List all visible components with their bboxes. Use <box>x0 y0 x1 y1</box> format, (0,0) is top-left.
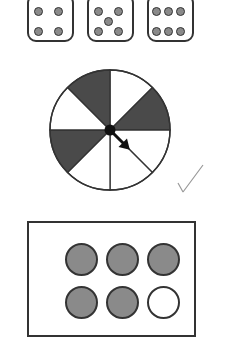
counter-unshaded <box>147 286 180 319</box>
spinner-hub <box>105 125 116 136</box>
spinner-wheel <box>50 70 170 190</box>
counter-shaded <box>106 243 139 276</box>
counter-box <box>27 221 196 337</box>
counter-shaded <box>147 243 180 276</box>
counter-shaded <box>65 243 98 276</box>
counter-shaded <box>106 286 139 319</box>
counter-shaded <box>65 286 98 319</box>
checkmark-icon <box>178 165 203 192</box>
